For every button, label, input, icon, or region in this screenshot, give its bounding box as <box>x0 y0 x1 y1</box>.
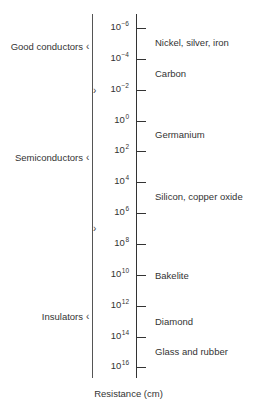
tick-mark <box>137 275 146 276</box>
tick-label: 10−6 <box>89 20 129 32</box>
tick-label: 1012 <box>89 298 129 310</box>
category-good-conductors: Good conductors <box>11 41 83 52</box>
material-nickel-silver-iron: Nickel, silver, iron <box>155 37 229 48</box>
tick-label: 108 <box>89 236 129 248</box>
material-carbon: Carbon <box>155 68 186 79</box>
material-diamond: Diamond <box>155 316 193 327</box>
tick-label: 102 <box>89 143 129 155</box>
tick-label: 1010 <box>89 267 129 279</box>
material-glass-and-rubber: Glass and rubber <box>155 346 228 357</box>
tick-mark <box>137 306 146 307</box>
tick-label: 10−2 <box>89 82 129 94</box>
brace-point-icon: ‹ <box>86 312 89 322</box>
category-semiconductors: Semiconductors <box>15 152 83 163</box>
tick-mark <box>137 151 146 152</box>
tick-mark <box>137 182 146 183</box>
axis-caption: Resistance (cm) <box>0 388 257 399</box>
tick-label: 1016 <box>89 359 129 371</box>
tick-mark <box>137 28 146 29</box>
tick-mark <box>137 367 146 368</box>
tick-label: 100 <box>89 113 129 125</box>
brace-divider-icon: › <box>93 224 96 234</box>
material-bakelite: Bakelite <box>155 270 189 281</box>
tick-mark <box>137 244 146 245</box>
material-silicon-copper-oxide: Silicon, copper oxide <box>155 191 243 202</box>
tick-mark <box>137 213 146 214</box>
tick-label: 10−4 <box>89 51 129 63</box>
material-germanium: Germanium <box>155 129 205 140</box>
tick-mark <box>137 59 146 60</box>
tick-label: 104 <box>89 174 129 186</box>
tick-mark <box>137 337 146 338</box>
tick-label: 1014 <box>89 329 129 341</box>
tick-mark <box>137 121 146 122</box>
tick-mark <box>137 90 146 91</box>
tick-label: 106 <box>89 205 129 217</box>
resistance-axis-line <box>136 14 137 378</box>
category-insulators: Insulators <box>42 311 83 322</box>
